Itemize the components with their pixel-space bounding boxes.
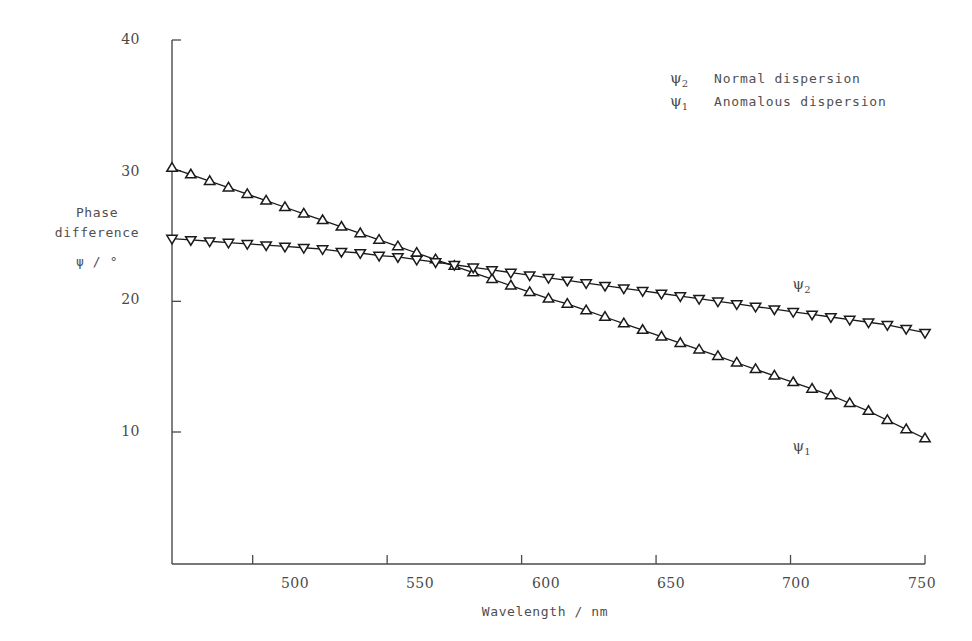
y-axis-title-line-3: ψ / ° <box>37 254 157 269</box>
legend-symbol-psi1-sub: 1 <box>682 101 688 112</box>
series-psi2 <box>167 235 930 338</box>
series-annotation-psi1-base: ψ <box>793 437 805 455</box>
data-point-marker <box>167 163 177 172</box>
legend-symbol-psi2: ψ2 <box>670 69 688 89</box>
y-axis-title-line-1: Phase <box>37 205 157 220</box>
x-tick-label-650: 650 <box>641 575 701 591</box>
data-point-marker <box>920 433 930 442</box>
data-point-marker <box>901 424 911 433</box>
series-annotation-psi2: ψ2 <box>793 275 811 295</box>
data-point-marker <box>920 329 930 338</box>
x-tick-label-600: 600 <box>516 575 576 591</box>
data-point-marker <box>223 239 233 248</box>
y-axis-title-line-2: difference <box>37 225 157 240</box>
data-point-marker <box>374 252 384 261</box>
x-tick-label-550: 550 <box>390 575 450 591</box>
y-tick-label-30: 30 <box>100 163 140 179</box>
legend-symbol-psi1-base: ψ <box>670 92 682 110</box>
x-tick-label-750: 750 <box>892 575 952 591</box>
x-axis-title: Wavelength / nm <box>445 604 645 619</box>
legend-label-anomalous-dispersion: Anomalous dispersion <box>714 94 887 109</box>
data-point-marker <box>167 235 177 244</box>
series-annotation-psi2-base: ψ <box>793 275 805 293</box>
legend-symbol-psi2-sub: 2 <box>682 78 688 89</box>
chart-figure: 40 30 20 10 500 550 600 650 700 750 Phas… <box>0 0 972 641</box>
series-psi1 <box>167 163 930 442</box>
data-point-marker <box>242 241 252 250</box>
data-point-marker <box>204 238 214 247</box>
y-tick-label-10: 10 <box>100 423 140 439</box>
data-point-marker <box>882 415 892 424</box>
y-tick-label-40: 40 <box>100 31 140 47</box>
legend-symbol-psi1: ψ1 <box>670 92 688 112</box>
data-point-marker <box>261 242 271 251</box>
series-annotation-psi2-sub: 2 <box>804 284 810 295</box>
x-tick-label-500: 500 <box>265 575 325 591</box>
series-annotation-psi1: ψ1 <box>793 437 811 457</box>
data-point-marker <box>336 248 346 257</box>
legend-symbol-psi2-base: ψ <box>670 69 682 87</box>
series-annotation-psi1-sub: 1 <box>804 446 810 457</box>
x-tick-label-700: 700 <box>766 575 826 591</box>
data-point-marker <box>299 244 309 253</box>
y-tick-label-20: 20 <box>100 291 140 307</box>
legend-label-normal-dispersion: Normal dispersion <box>714 71 861 86</box>
data-point-marker <box>280 243 290 252</box>
x-axis-ticks <box>253 555 925 564</box>
data-point-marker <box>186 237 196 246</box>
